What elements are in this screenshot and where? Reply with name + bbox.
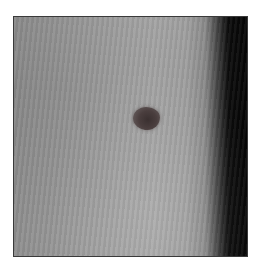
pigmented-lesion [133,107,160,130]
skin-photograph [13,16,248,257]
lighting-shade [14,17,247,256]
